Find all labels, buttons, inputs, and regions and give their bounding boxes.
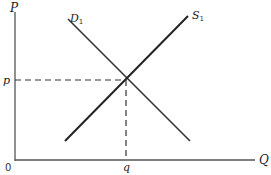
price-label: p [3, 74, 10, 87]
origin-label: 0 [5, 162, 11, 173]
y-axis-label: P [9, 1, 19, 15]
quantity-label: q [123, 161, 130, 174]
supply-demand-diagram: P Q 0 p q D1 S1 [0, 0, 271, 175]
demand-label: D1 [69, 12, 83, 26]
x-axis-label: Q [259, 153, 269, 167]
supply-label: S1 [192, 9, 204, 23]
